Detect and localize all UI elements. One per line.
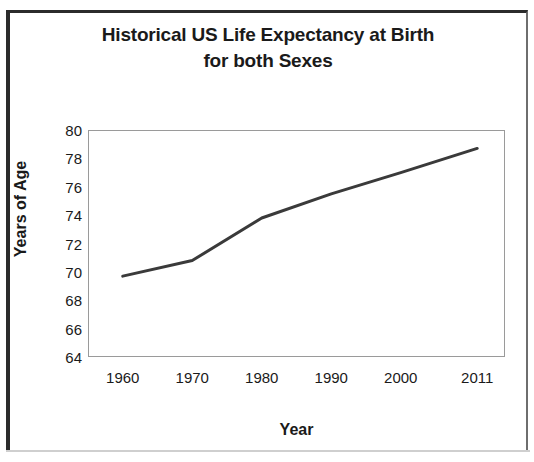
y-tick-label: 76 [48, 178, 82, 195]
y-tick-label: 68 [48, 292, 82, 309]
y-tick-label: 70 [48, 263, 82, 280]
chart-title-line-2: for both Sexes [30, 48, 506, 74]
y-tick-label: 66 [48, 320, 82, 337]
x-tick-label: 2000 [371, 369, 431, 386]
x-tick-label: 1970 [162, 369, 222, 386]
y-tick-label: 74 [48, 207, 82, 224]
x-axis-title: Year [88, 421, 505, 439]
chart-title-line-1: Historical US Life Expectancy at Birth [30, 22, 506, 48]
x-axis-tick-labels: 196019701980199020002011 [0, 369, 534, 393]
chart-title: Historical US Life Expectancy at Birth f… [30, 22, 506, 73]
x-tick-label: 1960 [93, 369, 153, 386]
x-tick-label: 1980 [232, 369, 292, 386]
y-tick-label: 80 [48, 122, 82, 139]
figure-frame-bottom-edge [6, 450, 530, 452]
y-axis-title: Years of Age [12, 144, 30, 274]
y-tick-label: 78 [48, 150, 82, 167]
x-tick-label: 1990 [301, 369, 361, 386]
x-tick-label: 2011 [447, 369, 507, 386]
chart-figure: Historical US Life Expectancy at Birth f… [0, 0, 534, 462]
y-tick-label: 72 [48, 235, 82, 252]
data-line-plot [88, 130, 505, 357]
y-tick-label: 64 [48, 349, 82, 366]
data-series-line [123, 148, 477, 276]
